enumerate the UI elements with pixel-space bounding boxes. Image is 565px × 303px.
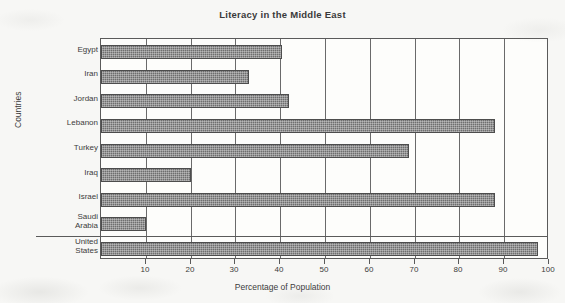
bar-row <box>101 168 547 182</box>
x-tick-label-50: 50 <box>312 265 336 274</box>
category-label-line: Israel <box>78 192 98 201</box>
x-tick-label-60: 60 <box>357 265 381 274</box>
bar-row <box>101 45 547 59</box>
chart-page: Literacy in the Middle East Countries Eg… <box>0 0 565 303</box>
x-tick-label-30: 30 <box>222 265 246 274</box>
x-tick-mark-10 <box>145 259 146 264</box>
category-label-line: Saudi <box>75 212 98 221</box>
x-tick-label-70: 70 <box>402 265 426 274</box>
bar-row <box>101 242 547 256</box>
bar-row <box>101 94 547 108</box>
x-tick-mark-50 <box>324 259 325 264</box>
bar-iran[interactable] <box>101 70 249 84</box>
plot-area <box>100 38 548 259</box>
bar-row <box>101 217 547 231</box>
category-label-united-states: UnitedStates <box>75 237 98 255</box>
bar-turkey[interactable] <box>101 144 409 158</box>
bar-saudi-arabia[interactable] <box>101 217 146 231</box>
category-label-line: Arabia <box>75 221 98 230</box>
bar-iraq[interactable] <box>101 168 191 182</box>
bar-united-states[interactable] <box>101 242 538 256</box>
category-label-line: Iraq <box>84 168 98 177</box>
x-tick-label-10: 10 <box>133 265 157 274</box>
x-tick-mark-70 <box>414 259 415 264</box>
bar-jordan[interactable] <box>101 94 289 108</box>
x-tick-mark-60 <box>369 259 370 264</box>
x-tick-mark-20 <box>190 259 191 264</box>
x-tick-label-90: 90 <box>491 265 515 274</box>
category-label-line: United <box>75 237 98 246</box>
category-label-israel: Israel <box>78 192 98 201</box>
category-label-line: Turkey <box>74 143 98 152</box>
category-label-jordan: Jordan <box>74 94 98 103</box>
category-label-line: Egypt <box>78 45 98 54</box>
x-tick-label-80: 80 <box>446 265 470 274</box>
category-label-line: States <box>75 246 98 255</box>
bar-lebanon[interactable] <box>101 119 495 133</box>
category-label-line: Lebanon <box>67 118 98 127</box>
x-tick-mark-90 <box>503 259 504 264</box>
category-label-line: Iran <box>84 69 98 78</box>
x-tick-label-20: 20 <box>178 265 202 274</box>
category-label-iran: Iran <box>84 69 98 78</box>
category-label-lebanon: Lebanon <box>67 118 98 127</box>
bar-israel[interactable] <box>101 193 495 207</box>
category-label-iraq: Iraq <box>84 168 98 177</box>
category-label-egypt: Egypt <box>78 45 98 54</box>
x-tick-mark-40 <box>279 259 280 264</box>
x-tick-label-40: 40 <box>267 265 291 274</box>
x-tick-mark-80 <box>458 259 459 264</box>
category-label-saudi-arabia: SaudiArabia <box>75 212 98 230</box>
category-label-line: Jordan <box>74 94 98 103</box>
bar-row <box>101 119 547 133</box>
bar-row <box>101 70 547 84</box>
united-states-separator <box>36 236 548 237</box>
bar-row <box>101 193 547 207</box>
x-tick-mark-30 <box>234 259 235 264</box>
bar-egypt[interactable] <box>101 45 282 59</box>
category-label-turkey: Turkey <box>74 143 98 152</box>
bar-row <box>101 144 547 158</box>
y-axis-title: Countries <box>13 92 23 128</box>
x-tick-mark-100 <box>548 259 549 264</box>
chart-title: Literacy in the Middle East <box>0 9 565 20</box>
x-tick-label-100: 100 <box>536 265 560 274</box>
x-axis-title: Percentage of Population <box>0 282 565 292</box>
